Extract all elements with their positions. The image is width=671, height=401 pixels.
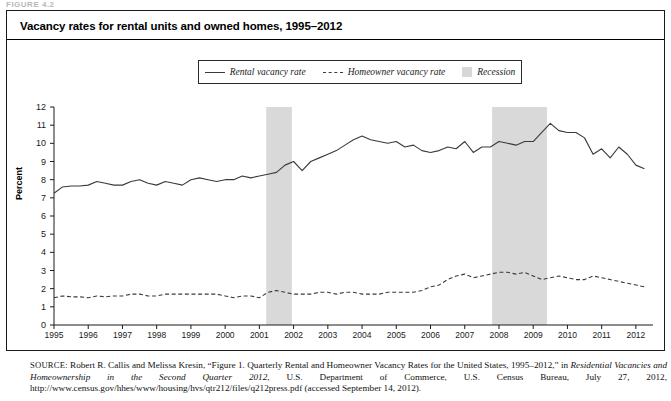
source-prefix: SOURCE	[30, 360, 65, 370]
source-note: SOURCE: Robert R. Callis and Melissa Kre…	[30, 360, 667, 395]
source-text-1: : Robert R. Callis and Melissa Kresin, “…	[65, 360, 570, 370]
source-note-clip: SOURCE: Robert R. Callis and Melissa Kre…	[0, 0, 671, 401]
